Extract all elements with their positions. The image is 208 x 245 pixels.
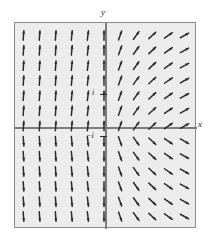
- tick-label-negative-i: −i: [86, 132, 94, 140]
- tick-mark-i: [100, 94, 107, 95]
- axis-label-y: y: [101, 8, 105, 17]
- figure-canvas: i −i y x: [0, 0, 208, 245]
- plot-frame: [14, 22, 196, 228]
- y-axis-line: [105, 23, 107, 229]
- tick-label-i: i: [92, 89, 94, 97]
- axis-label-x: x: [198, 120, 202, 129]
- tick-mark-negative-i: [100, 136, 107, 137]
